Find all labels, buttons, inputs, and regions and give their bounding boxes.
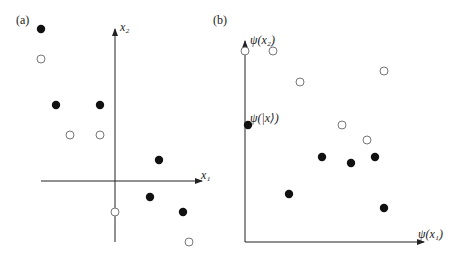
open-point — [185, 238, 193, 246]
panel-b-x-axis-label: ψ(x₁) — [418, 228, 443, 240]
panel-b-point-annotation: ψ(|x⟩) — [250, 112, 279, 124]
panel-a-label: (a) — [16, 14, 29, 26]
panel-a-x-axis-label: x₁ — [201, 169, 211, 181]
filled-point — [285, 190, 293, 198]
filled-point — [179, 208, 187, 216]
filled-point — [371, 153, 379, 161]
filled-point — [146, 193, 154, 201]
filled-point — [155, 156, 163, 164]
filled-point — [37, 25, 45, 33]
open-point — [37, 55, 45, 63]
open-point — [96, 131, 104, 139]
open-point — [241, 47, 249, 55]
panel-b-axes — [245, 41, 424, 242]
filled-point — [380, 204, 388, 212]
open-point — [66, 131, 74, 139]
panel-a-axes — [41, 29, 202, 242]
panel-b-label: (b) — [213, 14, 227, 26]
filled-point — [318, 153, 326, 161]
panel-b-points — [241, 47, 388, 212]
open-point — [363, 136, 371, 144]
open-point — [296, 78, 304, 86]
filled-point — [52, 101, 60, 109]
panel-a-y-axis-label: x₂ — [120, 21, 130, 33]
diagram-canvas — [0, 0, 458, 257]
open-point — [111, 208, 119, 216]
open-point — [338, 121, 346, 129]
filled-point — [347, 159, 355, 167]
open-point — [269, 47, 277, 55]
panel-b-y-axis-label: ψ(x₂) — [250, 34, 275, 46]
open-point — [380, 67, 388, 75]
filled-point — [96, 101, 104, 109]
